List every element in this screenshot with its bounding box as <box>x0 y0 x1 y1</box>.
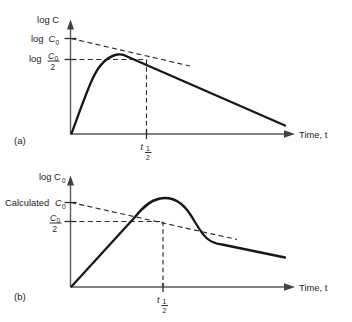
svg-text:1: 1 <box>163 298 167 305</box>
panel-a-y-axis <box>67 20 74 135</box>
panel-b-concentration-curve <box>72 198 286 286</box>
panel-a-xtick-label-thalf: t 1 2 <box>141 142 152 161</box>
svg-text:t: t <box>157 295 160 305</box>
panel-a-extrapolation-line <box>71 39 190 67</box>
svg-text:0: 0 <box>56 39 60 46</box>
figure-container: log C Time, t log C 0 <box>0 0 352 322</box>
svg-text:1: 1 <box>146 145 150 152</box>
svg-text:0: 0 <box>62 177 66 184</box>
panel-a: log C Time, t log C 0 <box>14 14 328 161</box>
svg-text:C: C <box>49 33 56 44</box>
two-panel-log-concentration-figure: log C Time, t log C 0 <box>0 0 352 322</box>
panel-b-extrapolation-line <box>71 203 237 240</box>
panel-b-tag: (b) <box>14 291 26 302</box>
svg-text:2: 2 <box>53 225 58 234</box>
svg-text:t: t <box>141 142 144 152</box>
svg-text:log C: log C <box>39 171 61 182</box>
svg-text:2: 2 <box>163 307 167 314</box>
panel-b-label-c0-over-2: C 0 2 <box>50 213 62 234</box>
panel-b-xtick-label-thalf: t 1 2 <box>157 295 168 314</box>
svg-text:Calculated: Calculated <box>5 197 49 208</box>
panel-a-x-axis <box>71 130 296 138</box>
panel-b-y-axis <box>67 176 74 288</box>
panel-a-label-log-c0-over-2: log C 0 2 <box>29 51 60 72</box>
svg-text:2: 2 <box>51 63 56 72</box>
panel-a-x-axis-label: Time, t <box>299 129 328 140</box>
svg-text:2: 2 <box>146 154 150 161</box>
svg-text:log: log <box>29 53 42 64</box>
panel-b-x-axis-label: Time, t <box>299 282 328 293</box>
panel-a-concentration-curve <box>72 54 286 133</box>
svg-text:0: 0 <box>55 55 59 62</box>
panel-b-label-calculated-c0: Calculated C 0 <box>5 197 66 210</box>
panel-b: log C 0 Time, t Calculated C <box>5 171 328 314</box>
svg-text:C: C <box>55 197 62 208</box>
svg-text:log: log <box>31 33 44 44</box>
svg-text:0: 0 <box>62 203 66 210</box>
panel-b-y-axis-label: log C 0 <box>39 171 66 184</box>
svg-text:0: 0 <box>57 217 61 224</box>
panel-b-x-axis <box>71 283 296 291</box>
panel-a-tag: (a) <box>14 135 26 146</box>
panel-a-label-log-c0: log C 0 <box>31 33 60 46</box>
panel-a-y-axis-label: log C <box>37 14 59 25</box>
